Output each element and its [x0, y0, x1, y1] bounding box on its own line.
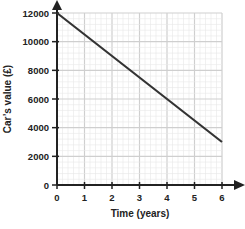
y-axis-label: Car’s value (£) [2, 65, 13, 133]
x-tick-label: 3 [137, 192, 142, 203]
y-axis-arrow-icon [52, 0, 62, 10]
x-tick-label: 4 [164, 192, 170, 203]
y-tick-label: 4000 [28, 122, 49, 133]
x-axis-label: Time (years) [111, 208, 170, 219]
y-tick-label: 6000 [28, 94, 49, 105]
x-tick-label: 5 [192, 192, 198, 203]
y-tick-label: 12000 [23, 8, 49, 19]
x-tick-label: 6 [219, 192, 224, 203]
axes [52, 0, 245, 190]
y-tick-label: 10000 [23, 36, 49, 47]
x-tick-label: 2 [109, 192, 114, 203]
line-chart: 0123456020004000600080001000012000 Time … [0, 0, 245, 229]
x-tick-label: 1 [82, 192, 88, 203]
x-axis-arrow-icon [234, 180, 245, 190]
y-tick-label: 2000 [28, 151, 49, 162]
grid [57, 13, 222, 185]
x-tick-label: 0 [54, 192, 59, 203]
y-tick-label: 8000 [28, 65, 49, 76]
y-tick-label: 0 [44, 180, 49, 191]
